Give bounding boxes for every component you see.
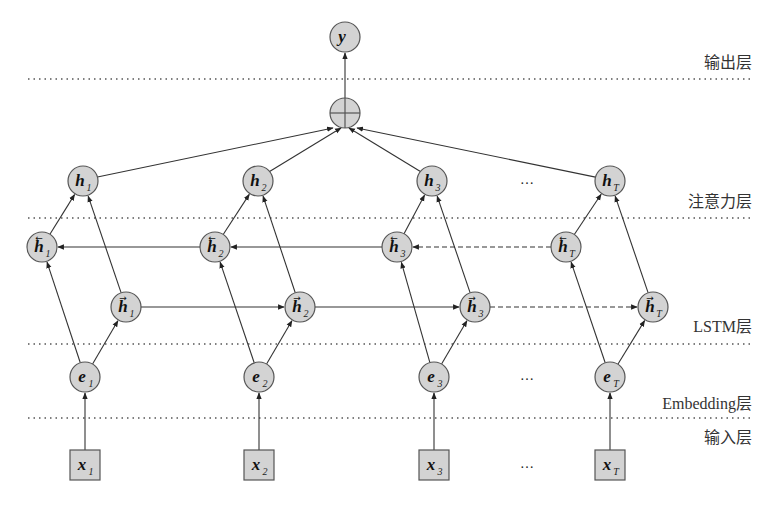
embedding-node-T: eT [595, 362, 625, 392]
edge-attention-to-sum [349, 128, 420, 171]
attention-node-2-subscript: 2 [262, 182, 267, 193]
edge-backward-to-attention [223, 194, 249, 234]
layer-label-attention: 注意力层 [688, 192, 752, 210]
forward-lstm-node-T: hT→ [638, 292, 668, 322]
edge-forward-to-attention [437, 196, 470, 293]
attention-node-2: h2 [243, 166, 273, 196]
sum-node [330, 98, 360, 128]
embedding-node-T-symbol: e [603, 367, 611, 386]
edge-attention-to-sum [270, 128, 341, 171]
forward-lstm-node-T-direction-accent: → [646, 293, 654, 303]
backward-lstm-node-T: hT← [551, 232, 581, 262]
input-node-3-symbol: x [426, 455, 436, 474]
ellipsis-embedding: … [520, 368, 534, 383]
forward-lstm-node-1-subscript: 1 [130, 308, 135, 319]
layer-label-lstm: LSTM层 [693, 318, 752, 335]
forward-lstm-node-1-direction-accent: → [119, 293, 127, 303]
edge-embedding-to-backward [47, 262, 80, 363]
backward-lstm-node-T-direction-accent: ← [559, 233, 567, 243]
attention-node-3-symbol: h [424, 171, 433, 190]
attention-node-T: hT [595, 166, 625, 196]
edge-forward-to-attention [615, 196, 648, 293]
edge-embedding-to-forward [442, 321, 467, 364]
backward-lstm-node-3: h3← [382, 232, 412, 262]
embedding-node-2-symbol: e [252, 367, 260, 386]
input-node-2-subscript: 2 [263, 466, 268, 477]
input-node-2: x2 [244, 450, 274, 480]
attention-node-1-symbol: h [75, 171, 84, 190]
bilstm-attention-diagram: 输出层 注意力层 LSTM层 Embedding层 输入层 yh1h1←h1→e… [0, 0, 774, 505]
layer-label-output: 输出层 [704, 54, 752, 71]
output-node-y-symbol: y [336, 27, 346, 46]
layer-label-input: 输入层 [704, 429, 752, 446]
forward-lstm-node-2-subscript: 2 [304, 308, 309, 319]
ellipsis-attention: … [520, 172, 534, 187]
ellipsis-input: … [520, 456, 534, 471]
embedding-node-3-subscript: 3 [437, 378, 443, 389]
forward-lstm-node-2: h2→ [285, 292, 315, 322]
attention-node-2-symbol: h [250, 171, 259, 190]
input-node-T: xT [595, 450, 625, 480]
backward-lstm-node-1-direction-accent: ← [35, 233, 43, 243]
attention-node-1: h1 [68, 166, 98, 196]
edge-forward-to-attention [88, 196, 121, 293]
edge-backward-to-attention [404, 195, 424, 234]
edge-embedding-to-forward [618, 321, 645, 365]
attention-node-3-subscript: 3 [435, 182, 441, 193]
input-node-3: x3 [419, 450, 449, 480]
backward-lstm-node-3-subscript: 3 [400, 248, 406, 259]
embedding-node-3: e3 [419, 362, 449, 392]
attention-node-3: h3 [417, 166, 447, 196]
attention-node-1-subscript: 1 [87, 182, 92, 193]
edge-embedding-to-backward [220, 262, 254, 363]
backward-lstm-node-2: h2← [200, 232, 230, 262]
embedding-node-2-subscript: 2 [263, 378, 268, 389]
forward-lstm-node-3-direction-accent: → [468, 293, 476, 303]
forward-lstm-node-3-subscript: 3 [478, 308, 484, 319]
embedding-node-1: e1 [70, 362, 100, 392]
forward-lstm-node-1: h1→ [111, 292, 141, 322]
edge-backward-to-attention [574, 194, 601, 234]
output-node-y: y [330, 22, 360, 52]
embedding-node-3-symbol: e [427, 367, 435, 386]
backward-lstm-node-2-direction-accent: ← [208, 233, 216, 243]
input-node-1-symbol: x [77, 455, 87, 474]
embedding-node-1-subscript: 1 [89, 378, 94, 389]
attention-node-T-symbol: h [602, 171, 611, 190]
edge-attention-to-sum [357, 128, 596, 177]
forward-lstm-node-2-direction-accent: → [293, 293, 301, 303]
embedding-node-1-symbol: e [78, 367, 86, 386]
edge-backward-to-attention [50, 195, 75, 235]
backward-lstm-node-2-subscript: 2 [219, 248, 224, 259]
layer-label-embedding: Embedding层 [662, 395, 752, 413]
edge-forward-to-attention [263, 196, 295, 293]
backward-lstm-node-1-subscript: 1 [46, 248, 51, 259]
embedding-node-2: e2 [244, 362, 274, 392]
input-node-T-symbol: x [602, 455, 612, 474]
forward-lstm-node-3: h3→ [460, 292, 490, 322]
backward-lstm-node-1: h1← [27, 232, 57, 262]
edge-embedding-to-forward [93, 321, 118, 364]
input-node-1-subscript: 1 [89, 466, 94, 477]
edge-attention-to-sum [97, 128, 333, 177]
input-node-2-symbol: x [251, 455, 261, 474]
edge-embedding-to-forward [267, 321, 292, 364]
backward-lstm-node-3-direction-accent: ← [390, 233, 398, 243]
edge-embedding-to-backward [571, 262, 605, 363]
input-node-1: x1 [70, 450, 100, 480]
edge-embedding-to-backward [401, 262, 430, 362]
input-node-3-subscript: 3 [437, 466, 443, 477]
